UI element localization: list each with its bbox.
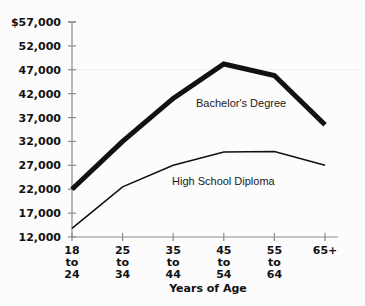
- x-tick-labels: 18to2425to3435to4445to5455to6465+: [64, 244, 337, 281]
- y-tick-label: 27,000: [19, 159, 62, 172]
- y-tick-labels: 12,00017,00022,00027,00032,00037,00042,0…: [11, 16, 61, 244]
- x-tick-label: 34: [115, 268, 131, 281]
- y-tick-label: 17,000: [19, 207, 62, 220]
- x-axis: [72, 233, 338, 241]
- x-tick-label: 44: [166, 268, 182, 281]
- y-tick-label: 47,000: [19, 64, 62, 77]
- y-axis: [68, 22, 76, 237]
- y-tick-label: 37,000: [19, 112, 62, 125]
- y-tick-label: 52,000: [19, 40, 62, 53]
- x-axis-title: Years of Age: [168, 282, 247, 295]
- y-tick-label: 32,000: [19, 135, 62, 148]
- chart-container: 12,00017,00022,00027,00032,00037,00042,0…: [0, 0, 365, 306]
- series-line: [72, 151, 325, 228]
- y-tick-label: $57,000: [11, 16, 61, 29]
- series-lines: [72, 64, 325, 228]
- series-annotation-label: Bachelor's Degree: [196, 97, 286, 109]
- x-tick-label: 64: [267, 268, 283, 281]
- y-tick-label: 22,000: [19, 183, 62, 196]
- x-tick-label: 24: [64, 268, 80, 281]
- y-tick-label: 42,000: [19, 88, 62, 101]
- x-tick-label: 65+: [313, 244, 338, 257]
- series-annotation-label: High School Diploma: [172, 175, 276, 187]
- series-line: [72, 64, 325, 189]
- line-chart: 12,00017,00022,00027,00032,00037,00042,0…: [0, 0, 365, 306]
- x-tick-label: 54: [216, 268, 232, 281]
- y-tick-label: 12,000: [19, 231, 62, 244]
- series-annotations: Bachelor's DegreeHigh School Diploma: [172, 97, 286, 187]
